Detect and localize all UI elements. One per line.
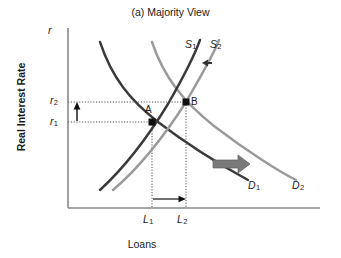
- curve-D1: [100, 42, 248, 180]
- curve-label-D1: D1: [248, 179, 260, 192]
- tick-label-L2: L2: [177, 213, 187, 226]
- tick-label-L1-sub: 1: [149, 217, 153, 226]
- curve-label-S1-base: S: [185, 38, 192, 50]
- x-axis-label: Loans: [0, 238, 284, 250]
- curve-label-D2: D2: [292, 179, 304, 192]
- curve-label-S2: S2: [210, 38, 221, 51]
- y-axis-label: Real Interest Rate: [15, 42, 27, 172]
- tick-label-L2-sub: 2: [183, 217, 187, 226]
- tick-label-L2-base: L: [177, 213, 183, 225]
- equilibrium-point-a-label: A: [145, 104, 152, 115]
- equilibrium-point-b-label: B: [191, 96, 198, 107]
- plot-area: [0, 0, 341, 258]
- tick-label-r1-base: r: [50, 115, 54, 127]
- chart-title: (a) Majority View: [0, 6, 341, 18]
- economics-supply-demand-figure: (a) Majority View Real Interest Rate Loa…: [0, 0, 341, 258]
- curve-label-D1-sub: 1: [256, 183, 260, 192]
- curve-D2: [152, 42, 296, 180]
- y-axis-variable-text: r: [48, 24, 52, 36]
- tick-label-L1: L1: [143, 213, 153, 226]
- tick-label-r1-sub: 1: [54, 119, 58, 128]
- curve-label-S2-base: S: [210, 38, 217, 50]
- tick-label-r2-sub: 2: [54, 98, 58, 107]
- curve-label-D1-base: D: [248, 179, 256, 191]
- tick-label-r2-base: r: [50, 94, 54, 106]
- loans-increase-arrow-icon: [153, 196, 186, 203]
- y-axis-variable-label: r: [48, 24, 52, 36]
- equilibrium-point-b-marker: [183, 99, 190, 106]
- curve-label-D2-sub: 2: [300, 183, 304, 192]
- equilibrium-point-a-marker: [149, 119, 156, 126]
- curve-label-S2-sub: 2: [217, 42, 221, 51]
- tick-label-L1-base: L: [143, 213, 149, 225]
- curve-label-D2-base: D: [292, 179, 300, 191]
- rate-increase-arrow-icon: [74, 102, 81, 121]
- tick-label-r2: r2: [50, 94, 58, 107]
- curve-label-S1-sub: 1: [192, 42, 196, 51]
- curve-label-S1: S1: [185, 38, 196, 51]
- tick-label-r1: r1: [50, 115, 58, 128]
